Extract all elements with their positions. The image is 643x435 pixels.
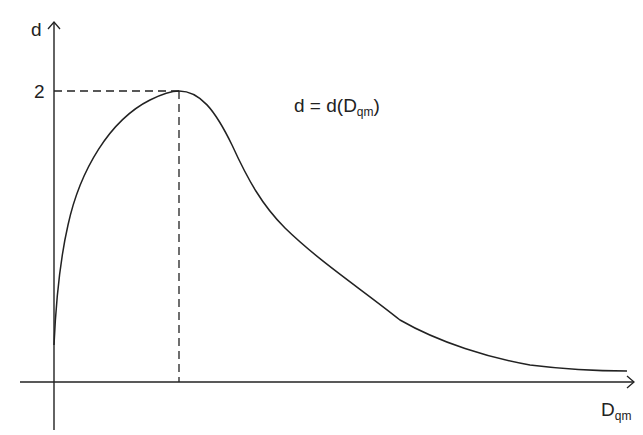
y-tick-label: 2 (34, 82, 45, 101)
x-axis-label: Dqm (601, 400, 631, 419)
y-axis-label: d (31, 20, 42, 39)
x-axis-label-sub: qm (615, 409, 632, 423)
annotation-var: D (343, 95, 357, 116)
annotation-rhs: ) (374, 95, 380, 116)
series-curve (54, 91, 627, 371)
annotation-lhs: d = d( (294, 95, 343, 116)
x-axis-label-main: D (601, 399, 615, 420)
function-annotation: d = d(Dqm) (294, 96, 380, 115)
chart-canvas (0, 0, 643, 435)
annotation-sub: qm (357, 105, 374, 119)
